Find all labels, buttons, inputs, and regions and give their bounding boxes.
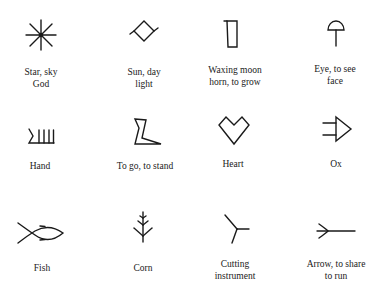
label-line: light xyxy=(94,78,194,90)
label-line: Corn xyxy=(93,262,193,274)
label-line: face xyxy=(285,75,383,87)
fish-icon xyxy=(17,221,65,245)
sign-label: Fish xyxy=(0,262,92,274)
label-line: Fish xyxy=(0,262,92,274)
label-line: Sun, day xyxy=(94,66,194,78)
foot-icon xyxy=(134,118,162,146)
star-icon xyxy=(26,20,56,50)
moon-rectangle-icon xyxy=(223,20,239,48)
label-line: instrument xyxy=(185,270,285,282)
label-line: Waxing moon xyxy=(185,64,285,76)
sign-label: Ox xyxy=(286,158,383,170)
label-line: Heart xyxy=(183,158,283,170)
corn-icon xyxy=(131,211,155,243)
sign-label: Star, sky God xyxy=(0,66,91,90)
label-line: to run xyxy=(286,270,383,282)
label-line: Hand xyxy=(0,160,90,172)
sign-label: Waxing moon horn, to grow xyxy=(185,64,285,88)
label-line: Arrow, to share xyxy=(286,258,383,270)
sign-label: Sun, day light xyxy=(94,66,194,90)
heart-icon xyxy=(218,116,250,146)
sun-diamond-icon xyxy=(129,20,159,42)
label-line: God xyxy=(0,78,91,90)
hand-comb-icon xyxy=(28,128,54,144)
arrow-icon xyxy=(316,223,356,239)
label-line: horn, to grow xyxy=(185,76,285,88)
label-line: Star, sky xyxy=(0,66,91,78)
label-line: To go, to stand xyxy=(95,160,195,172)
eye-dome-icon xyxy=(326,19,346,47)
ox-icon xyxy=(322,116,352,142)
sign-label: To go, to stand xyxy=(95,160,195,172)
label-line: Cutting xyxy=(185,258,285,270)
sign-label: Cutting instrument xyxy=(185,258,285,282)
sign-label: Hand xyxy=(0,160,90,172)
sign-label: Eye, to see face xyxy=(285,63,383,87)
label-line: Ox xyxy=(286,158,383,170)
sign-label: Arrow, to share to run xyxy=(286,258,383,282)
cutting-instrument-icon xyxy=(224,214,250,244)
sign-label: Corn xyxy=(93,262,193,274)
label-line: Eye, to see xyxy=(285,63,383,75)
sign-label: Heart xyxy=(183,158,283,170)
